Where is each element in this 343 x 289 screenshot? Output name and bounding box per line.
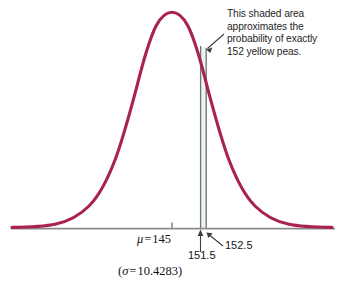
lower-bound-label: 151.5: [188, 249, 216, 261]
sigma-value: 10.4283: [137, 264, 178, 278]
callout-leader-arrowhead: [206, 48, 212, 53]
lower-bound-arrowhead: [198, 230, 204, 236]
annotation-line-4: 152 yellow peas.: [227, 46, 341, 59]
callout-leader-line: [208, 34, 225, 49]
mean-label: μ=145: [137, 232, 171, 247]
sigma-label: (σ=10.4283): [118, 264, 182, 279]
upper-bound-label: 152.5: [225, 239, 253, 251]
shaded-area-annotation: This shaded area approximates the probab…: [227, 8, 341, 58]
annotation-line-3: probability of exactly: [227, 33, 341, 46]
upper-bound-arrow-shaft: [209, 235, 223, 247]
annotation-line-2: approximates the: [227, 21, 341, 34]
mean-value: 145: [152, 232, 171, 246]
annotation-line-1: This shaded area: [227, 8, 341, 21]
mean-equals-sign: =: [143, 232, 152, 246]
normal-distribution-figure: This shaded area approximates the probab…: [0, 0, 343, 289]
sigma-close-paren: ): [178, 264, 182, 278]
